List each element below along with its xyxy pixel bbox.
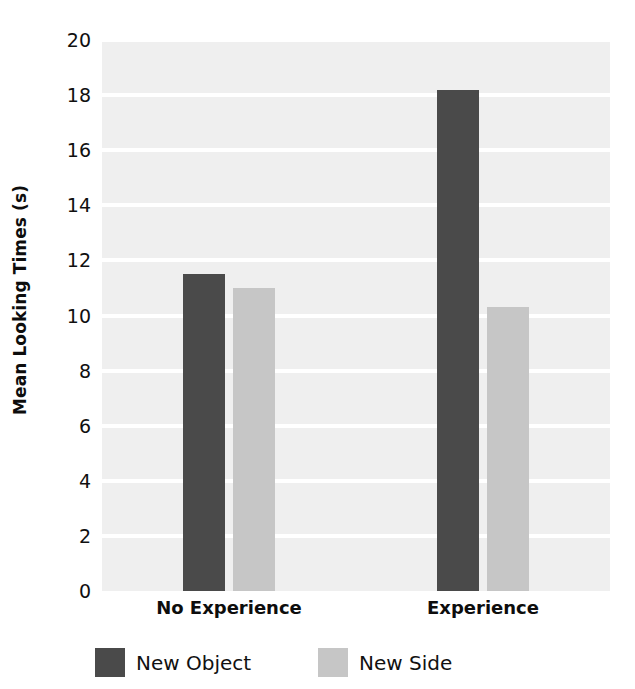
y-axis-tick-label: 10 xyxy=(45,306,91,325)
y-axis-tick-label: 6 xyxy=(45,416,91,435)
y-axis-tick-label: 18 xyxy=(45,86,91,105)
gridline xyxy=(102,203,610,207)
x-axis-category-label: Experience xyxy=(427,597,539,618)
legend-item[interactable]: New Side xyxy=(318,648,452,677)
gridline xyxy=(102,258,610,262)
bar xyxy=(183,274,225,591)
y-axis-tick-label: 20 xyxy=(45,31,91,50)
gridline xyxy=(102,424,610,428)
x-axis-category-labels: No ExperienceExperience xyxy=(102,597,610,627)
bar xyxy=(487,307,529,591)
legend-item[interactable]: New Object xyxy=(95,648,251,677)
legend-swatch-icon xyxy=(95,648,125,677)
gridline xyxy=(102,534,610,538)
y-axis-tick-label: 12 xyxy=(45,251,91,270)
gridline xyxy=(102,40,610,42)
y-axis-tick-label: 2 xyxy=(45,526,91,545)
gridline xyxy=(102,369,610,373)
y-axis-tick-label: 14 xyxy=(45,196,91,215)
legend-label: New Side xyxy=(359,653,452,673)
legend-swatch-icon xyxy=(318,648,348,677)
bar xyxy=(233,288,275,591)
y-axis-tick-labels: 20181614121086420 xyxy=(44,0,96,620)
gridline xyxy=(102,148,610,152)
bar xyxy=(437,90,479,591)
gridline xyxy=(102,314,610,318)
plot-area xyxy=(102,40,610,591)
y-axis-tick-label: 4 xyxy=(45,471,91,490)
bar-chart-figure: Mean Looking Times (s) 20181614121086420… xyxy=(0,0,635,689)
legend-label: New Object xyxy=(136,653,251,673)
x-axis-category-label: No Experience xyxy=(156,597,302,618)
gridline xyxy=(102,479,610,483)
y-axis-tick-label: 8 xyxy=(45,361,91,380)
chart-legend: New ObjectNew Side xyxy=(0,648,635,689)
y-axis-title-text: Mean Looking Times (s) xyxy=(10,185,30,415)
y-axis-title: Mean Looking Times (s) xyxy=(0,0,40,600)
gridline xyxy=(102,93,610,97)
y-axis-tick-label: 0 xyxy=(45,582,91,601)
y-axis-tick-label: 16 xyxy=(45,141,91,160)
